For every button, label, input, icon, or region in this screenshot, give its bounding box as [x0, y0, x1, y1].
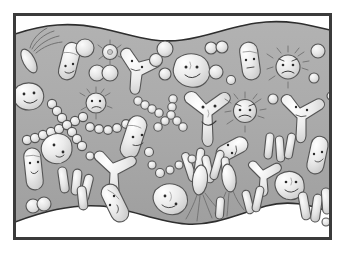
microbe-illustration [0, 0, 345, 253]
organism-coccus [37, 197, 51, 211]
organism-coccus [156, 169, 165, 178]
organism-coccus [216, 41, 228, 53]
organism-rod [77, 186, 88, 211]
organism-coccus [209, 65, 223, 79]
organism-coccus [159, 68, 171, 80]
organism-blob-face [14, 83, 44, 110]
organism-coccus [205, 42, 217, 54]
organism-coccus [102, 65, 118, 81]
organism-coccus [175, 161, 183, 169]
organism-rod [215, 197, 225, 220]
illustration-canvas [0, 0, 345, 253]
organism-blob-face [41, 134, 72, 164]
organism-coccus [157, 41, 173, 57]
organism-coccus [76, 39, 94, 57]
organism-coccus [311, 44, 325, 58]
organism-blob-face [173, 54, 210, 87]
organism-coccus [227, 76, 236, 85]
organism-coccus [309, 73, 319, 83]
organism-coccus [145, 148, 154, 157]
screenshot-root [0, 0, 345, 253]
organism-coccus [166, 166, 174, 174]
organism-rod [275, 136, 285, 162]
organism-coccus [188, 155, 196, 163]
organism-coccus [86, 152, 94, 160]
organism-coccus [322, 218, 330, 226]
organism-coccus [268, 94, 278, 104]
organism-coccus [148, 161, 156, 169]
